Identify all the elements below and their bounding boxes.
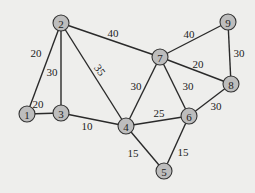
edge-weight-1-3: 20: [33, 98, 45, 110]
edge-weight-7-9: 40: [184, 28, 196, 40]
node-label: 5: [161, 166, 167, 178]
node-label: 9: [225, 17, 231, 29]
node-6: 6: [181, 108, 197, 124]
node-5: 5: [156, 163, 172, 179]
edge-weight-4-6: 25: [154, 107, 166, 119]
weighted-graph: 202030354010302515153030204030 123456789: [0, 0, 255, 193]
edge-weight-6-7: 30: [183, 80, 195, 92]
node-4: 4: [118, 118, 134, 134]
node-8: 8: [223, 76, 239, 92]
node-label: 6: [186, 111, 192, 123]
edge-weight-4-5: 15: [128, 147, 140, 159]
edge-6-5: [164, 116, 189, 171]
edge-weight-2-3: 30: [47, 66, 59, 78]
node-7: 7: [152, 49, 168, 65]
node-2: 2: [53, 15, 69, 31]
node-1: 1: [19, 106, 35, 122]
node-label: 3: [58, 108, 64, 120]
node-3: 3: [53, 105, 69, 121]
node-label: 7: [157, 52, 163, 64]
node-label: 4: [123, 121, 129, 133]
edge-9-8: [228, 22, 231, 84]
node-label: 2: [58, 18, 64, 30]
node-label: 1: [24, 109, 30, 121]
edge-weight-9-8: 30: [234, 47, 246, 59]
edge-weight-6-5: 15: [178, 146, 190, 158]
edge-weight-3-4: 10: [82, 120, 94, 132]
edge-weight-4-7: 30: [131, 80, 143, 92]
edge-weight-1-2: 20: [31, 47, 43, 59]
node-9: 9: [220, 14, 236, 30]
edge-weight-6-8: 30: [211, 100, 223, 112]
edge-weight-2-7: 40: [108, 27, 120, 39]
edge-weight-7-8: 20: [193, 58, 205, 70]
edge-3-4: [61, 113, 126, 126]
node-label: 8: [228, 79, 234, 91]
